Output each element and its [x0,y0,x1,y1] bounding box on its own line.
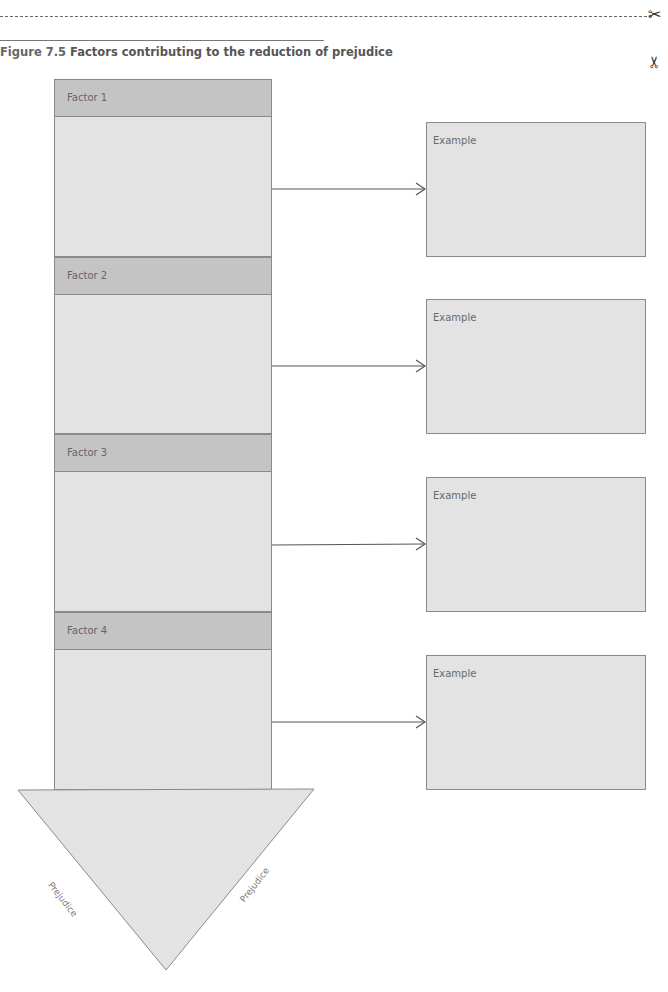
connectors-and-arrowhead [0,0,668,992]
downward-arrowhead [18,789,314,970]
arrow-connectors [272,183,425,728]
